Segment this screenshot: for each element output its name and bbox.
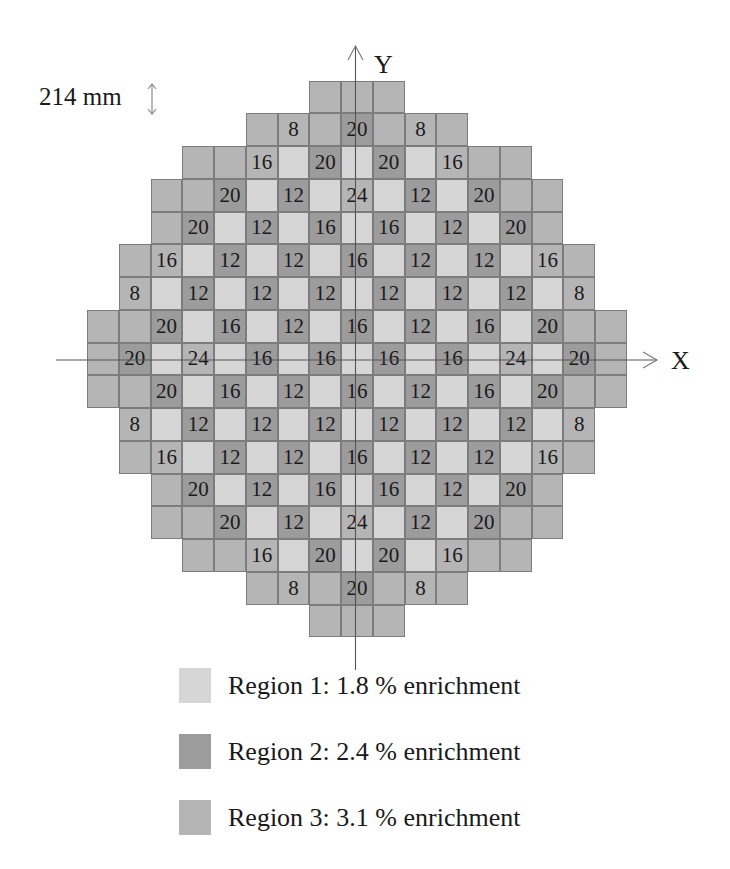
fuel-assembly-cell bbox=[246, 244, 278, 277]
fuel-assembly-cell: 16 bbox=[373, 343, 405, 376]
fuel-assembly-cell: 20 bbox=[214, 506, 246, 539]
fuel-assembly-cell bbox=[405, 146, 437, 179]
fuel-assembly-cell: 12 bbox=[278, 375, 310, 408]
fuel-assembly-cell bbox=[309, 179, 341, 212]
fuel-assembly-cell bbox=[532, 408, 564, 441]
fuel-assembly-cell bbox=[309, 244, 341, 277]
fuel-assembly-cell bbox=[532, 212, 564, 245]
fuel-assembly-cell: 8 bbox=[119, 277, 151, 310]
fuel-assembly-cell: 12 bbox=[278, 441, 310, 474]
fuel-assembly-cell: 20 bbox=[468, 179, 500, 212]
fuel-assembly-cell: 16 bbox=[341, 375, 373, 408]
fuel-assembly-cell bbox=[151, 179, 183, 212]
fuel-assembly-cell bbox=[532, 277, 564, 310]
fuel-assembly-cell: 24 bbox=[341, 179, 373, 212]
fuel-assembly-cell: 12 bbox=[182, 408, 214, 441]
fuel-assembly-cell bbox=[500, 179, 532, 212]
fuel-assembly-cell: 12 bbox=[500, 408, 532, 441]
fuel-assembly-cell bbox=[436, 244, 468, 277]
fuel-assembly-cell: 20 bbox=[532, 375, 564, 408]
fuel-assembly-cell bbox=[341, 539, 373, 572]
fuel-assembly-cell bbox=[341, 146, 373, 179]
fuel-assembly-cell: 16 bbox=[436, 343, 468, 376]
fuel-assembly-cell bbox=[214, 146, 246, 179]
fuel-assembly-cell: 16 bbox=[532, 441, 564, 474]
fuel-assembly-cell bbox=[246, 113, 278, 146]
fuel-assembly-cell bbox=[119, 441, 151, 474]
fuel-assembly-cell: 8 bbox=[278, 113, 310, 146]
fuel-assembly-cell bbox=[87, 310, 119, 343]
fuel-assembly-cell bbox=[182, 179, 214, 212]
fuel-assembly-cell bbox=[595, 310, 627, 343]
fuel-assembly-cell bbox=[468, 343, 500, 376]
fuel-assembly-cell bbox=[373, 375, 405, 408]
fuel-assembly-cell bbox=[405, 212, 437, 245]
fuel-assembly-cell: 12 bbox=[436, 212, 468, 245]
fuel-assembly-cell bbox=[405, 474, 437, 507]
fuel-assembly-cell: 20 bbox=[563, 343, 595, 376]
x-axis-label: X bbox=[671, 346, 690, 376]
fuel-assembly-cell: 16 bbox=[246, 539, 278, 572]
legend-item-region-3: Region 3: 3.1 % enrichment bbox=[179, 800, 520, 835]
fuel-assembly-cell bbox=[182, 146, 214, 179]
fuel-assembly-cell: 12 bbox=[278, 179, 310, 212]
fuel-assembly-cell bbox=[468, 277, 500, 310]
fuel-assembly-cell bbox=[309, 81, 341, 114]
fuel-assembly-cell: 12 bbox=[214, 441, 246, 474]
fuel-assembly-cell bbox=[468, 146, 500, 179]
fuel-assembly-cell: 12 bbox=[405, 375, 437, 408]
fuel-assembly-cell bbox=[309, 605, 341, 638]
fuel-assembly-cell: 16 bbox=[436, 146, 468, 179]
fuel-assembly-cell: 12 bbox=[405, 441, 437, 474]
legend-label: Region 2: 2.4 % enrichment bbox=[228, 734, 520, 769]
fuel-assembly-cell: 20 bbox=[341, 113, 373, 146]
fuel-assembly-cell bbox=[563, 310, 595, 343]
fuel-assembly-cell: 20 bbox=[151, 310, 183, 343]
fuel-assembly-cell: 20 bbox=[151, 375, 183, 408]
fuel-assembly-cell bbox=[278, 474, 310, 507]
fuel-assembly-cell bbox=[563, 441, 595, 474]
fuel-assembly-cell: 12 bbox=[405, 244, 437, 277]
fuel-assembly-cell bbox=[373, 179, 405, 212]
fuel-assembly-cell: 16 bbox=[246, 343, 278, 376]
fuel-assembly-cell: 24 bbox=[341, 506, 373, 539]
fuel-assembly-cell bbox=[468, 474, 500, 507]
legend-swatch-region-3 bbox=[179, 800, 211, 835]
fuel-assembly-cell bbox=[309, 441, 341, 474]
fuel-assembly-cell: 20 bbox=[214, 179, 246, 212]
fuel-assembly-cell bbox=[500, 146, 532, 179]
fuel-assembly-cell: 16 bbox=[436, 539, 468, 572]
fuel-assembly-cell: 12 bbox=[246, 212, 278, 245]
fuel-assembly-cell: 20 bbox=[182, 212, 214, 245]
fuel-assembly-cell bbox=[309, 506, 341, 539]
fuel-assembly-cell bbox=[309, 310, 341, 343]
fuel-assembly-cell bbox=[500, 506, 532, 539]
fuel-assembly-cell bbox=[341, 212, 373, 245]
fuel-assembly-cell bbox=[182, 375, 214, 408]
fuel-assembly-cell bbox=[151, 212, 183, 245]
fuel-assembly-cell: 12 bbox=[436, 408, 468, 441]
fuel-assembly-cell: 16 bbox=[468, 375, 500, 408]
fuel-assembly-cell: 16 bbox=[341, 441, 373, 474]
fuel-assembly-cell bbox=[278, 408, 310, 441]
fuel-assembly-cell bbox=[246, 572, 278, 605]
fuel-assembly-cell bbox=[373, 81, 405, 114]
fuel-assembly-cell: 12 bbox=[246, 277, 278, 310]
fuel-assembly-cell bbox=[309, 572, 341, 605]
fuel-assembly-cell: 20 bbox=[532, 310, 564, 343]
fuel-assembly-cell bbox=[436, 113, 468, 146]
fuel-assembly-cell: 16 bbox=[373, 474, 405, 507]
fuel-assembly-cell bbox=[468, 212, 500, 245]
fuel-assembly-cell bbox=[87, 375, 119, 408]
fuel-assembly-cell bbox=[119, 244, 151, 277]
fuel-assembly-cell: 12 bbox=[405, 310, 437, 343]
fuel-assembly-cell bbox=[278, 343, 310, 376]
fuel-assembly-cell: 20 bbox=[468, 506, 500, 539]
fuel-assembly-cell: 20 bbox=[309, 539, 341, 572]
legend-label: Region 1: 1.8 % enrichment bbox=[228, 668, 520, 703]
fuel-assembly-cell bbox=[500, 539, 532, 572]
fuel-assembly-cell: 16 bbox=[151, 441, 183, 474]
fuel-assembly-cell bbox=[151, 343, 183, 376]
fuel-assembly-cell bbox=[182, 539, 214, 572]
fuel-assembly-cell: 12 bbox=[309, 277, 341, 310]
